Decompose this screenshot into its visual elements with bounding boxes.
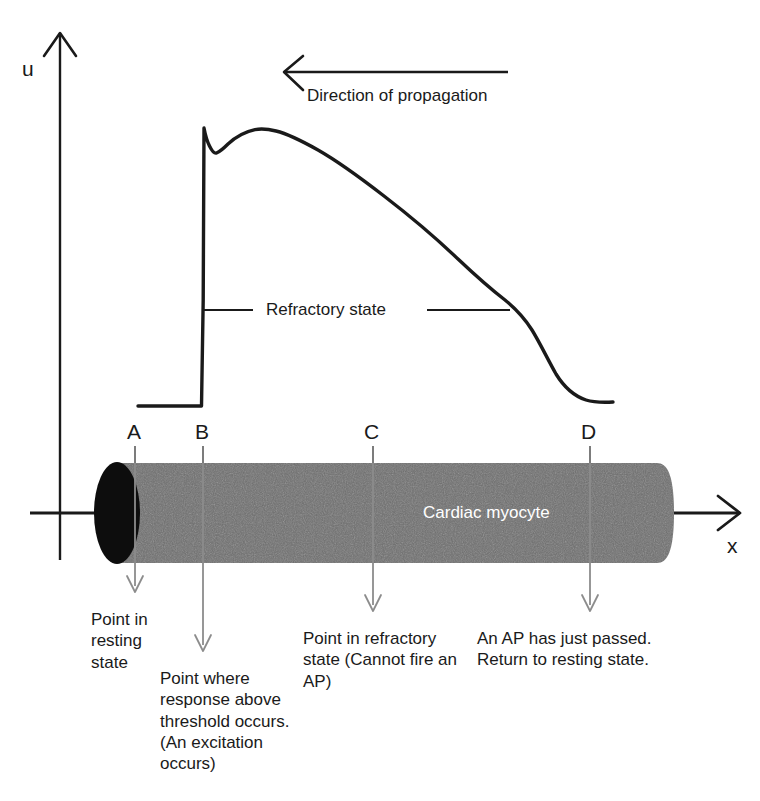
direction-of-propagation-label: Direction of propagation: [307, 86, 488, 107]
annotation-point-c: Point in refractory state (Cannot fire a…: [303, 628, 457, 692]
cardiac-myocyte-label: Cardiac myocyte: [423, 503, 550, 524]
point-letter-d: D: [581, 419, 596, 445]
action-potential-curve: [138, 128, 613, 406]
annotation-point-b: Point where response above threshold occ…: [160, 668, 289, 774]
annotation-point-a: Point in resting state: [91, 609, 148, 673]
cell-left-cap: [94, 462, 140, 564]
point-letter-a: A: [127, 419, 141, 445]
cardiac-myocyte-cell: [94, 462, 674, 564]
point-letter-c: C: [364, 419, 379, 445]
propagation-arrow: [284, 56, 508, 90]
y-axis: [44, 33, 76, 560]
point-letter-b: B: [195, 419, 209, 445]
x-axis-label: x: [727, 533, 738, 559]
annotation-point-d: An AP has just passed. Return to resting…: [477, 628, 652, 671]
y-axis-label: u: [22, 56, 34, 82]
cardiac-action-potential-diagram: u x Direction of propagation Refractory …: [0, 0, 760, 801]
refractory-state-label: Refractory state: [266, 300, 386, 321]
